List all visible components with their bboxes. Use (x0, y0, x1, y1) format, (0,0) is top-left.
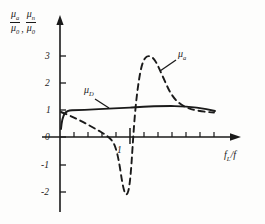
y-axis-arrow-icon (56, 15, 63, 25)
y-tick-label: 1 (46, 106, 51, 116)
plot-area (0, 0, 265, 224)
curve-label-mu-a: μa (178, 49, 186, 62)
figure-canvas: μa μ0 , μn μ0 fL/f 3 2 1 0 -1 -2 1 μD μa (0, 0, 265, 224)
y-axis-label-first-denominator: μ0 (10, 22, 20, 36)
leader-line-mu-d (95, 99, 109, 108)
y-tick-label: 0 (45, 133, 50, 143)
y-axis-label-separator: , (21, 24, 25, 35)
x-tick-label: 1 (117, 146, 122, 156)
y-axis-label-second-numerator: μn (26, 9, 36, 22)
leader-line-mu-a (160, 60, 176, 71)
y-axis-label-fraction-second: μn μ0 (26, 9, 36, 35)
y-tick-label: -2 (41, 188, 49, 198)
y-tick-label: -1 (41, 161, 49, 171)
y-tick-label: 3 (45, 52, 50, 62)
x-axis-label: fL/f (224, 150, 236, 163)
x-axis-arrow-icon (230, 133, 241, 141)
y-axis-label-fraction-first: μa μ0 (10, 9, 20, 35)
y-tick-label: 2 (45, 79, 50, 89)
curve-label-mu-d: μD (84, 85, 94, 98)
y-axis-label: μa μ0 , μn μ0 (10, 9, 36, 35)
curve-mu-a-dashed (61, 56, 214, 194)
y-axis-label-first-numerator: μa (10, 9, 20, 22)
y-axis-label-second-denominator: μ0 (26, 22, 36, 36)
